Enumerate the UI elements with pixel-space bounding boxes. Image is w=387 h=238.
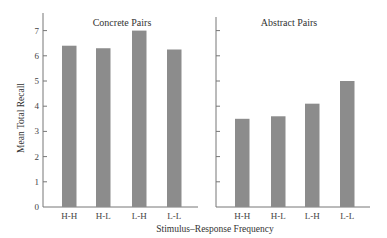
x-axis-title: Stimulus–Response Frequency — [156, 224, 274, 234]
bar-h-l — [271, 116, 286, 207]
x-tick-label: L-H — [305, 211, 320, 221]
bar-l-h — [132, 31, 147, 207]
left-bars — [62, 31, 182, 207]
y-tick-label: 0 — [35, 202, 40, 212]
bar-l-l — [340, 81, 355, 207]
left-y-ticks: 01234567 — [35, 26, 48, 212]
x-tick-label: L-L — [167, 211, 181, 221]
y-tick-label: 3 — [35, 126, 40, 136]
x-tick-label: H-L — [96, 211, 111, 221]
bar-l-h — [305, 104, 320, 207]
y-axis-title: Mean Total Recall — [16, 83, 26, 153]
y-tick-label: 5 — [35, 76, 40, 86]
y-tick-label: 7 — [35, 26, 40, 36]
bar-h-h — [62, 46, 77, 207]
concrete-pairs-panel: Concrete Pairs 01234567 H-HH-LL-HL-L — [35, 13, 199, 221]
x-tick-label: H-H — [61, 211, 77, 221]
right-y-ticks — [216, 31, 220, 182]
y-tick-label: 2 — [35, 152, 40, 162]
right-x-tick-labels: H-HH-LL-HL-L — [234, 211, 354, 221]
x-tick-label: H-H — [234, 211, 250, 221]
y-tick-label: 4 — [35, 101, 40, 111]
x-tick-label: L-H — [132, 211, 147, 221]
bar-h-l — [96, 48, 111, 207]
abstract-pairs-panel: Abstract Pairs H-HH-LL-HL-L — [216, 17, 370, 221]
bar-l-l — [167, 50, 182, 208]
x-tick-label: H-L — [271, 211, 286, 221]
x-tick-label: L-L — [340, 211, 354, 221]
bar-h-h — [235, 119, 250, 207]
abstract-pairs-title: Abstract Pairs — [261, 17, 317, 28]
y-tick-label: 1 — [35, 177, 40, 187]
right-bars — [235, 81, 355, 207]
concrete-pairs-title: Concrete Pairs — [93, 17, 152, 28]
left-x-tick-labels: H-HH-LL-HL-L — [61, 211, 181, 221]
bar-chart: Mean Total Recall Stimulus–Response Freq… — [0, 0, 387, 238]
y-tick-label: 6 — [35, 51, 40, 61]
